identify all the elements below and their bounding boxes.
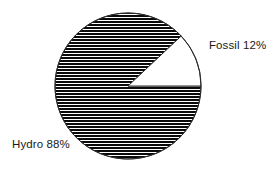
pie-label-hydro: Hydro 88%	[12, 138, 70, 150]
pie-chart-figure: Fossil 12% Hydro 88%	[0, 0, 271, 170]
pie-label-fossil: Fossil 12%	[209, 39, 266, 51]
